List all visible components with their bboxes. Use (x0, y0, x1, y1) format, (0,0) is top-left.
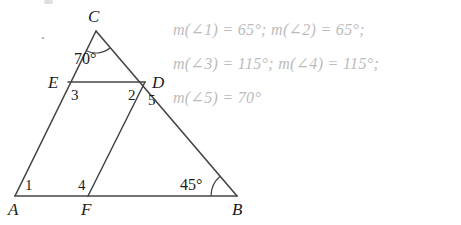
vertex-label-C: C (88, 8, 99, 25)
vertex-label-E: E (48, 74, 58, 91)
vertex-label-F: F (81, 201, 91, 218)
vertex-label-B: B (232, 201, 242, 218)
figure-page: C E D A F B 1 2 3 4 5 70° 45° m(∠1) = 65… (0, 0, 461, 225)
angle-number-1: 1 (25, 178, 33, 193)
angle-number-4: 4 (78, 178, 86, 193)
answer-line-3: m(∠5) = 70° (173, 90, 261, 106)
angle-measure-B: 45° (180, 177, 202, 193)
segment-FD (88, 82, 145, 196)
angle-number-2: 2 (128, 88, 136, 103)
angle-number-5: 5 (148, 93, 156, 108)
angle-arc-B (211, 176, 220, 196)
answer-line-1: m(∠1) = 65°; m(∠2) = 65°; (173, 22, 365, 38)
angle-measure-C: 70° (74, 51, 96, 67)
vertex-label-D: D (152, 74, 164, 91)
vertex-label-A: A (8, 201, 18, 218)
answer-line-2: m(∠3) = 115°; m(∠4) = 115°; (173, 56, 379, 72)
angle-number-3: 3 (71, 88, 79, 103)
